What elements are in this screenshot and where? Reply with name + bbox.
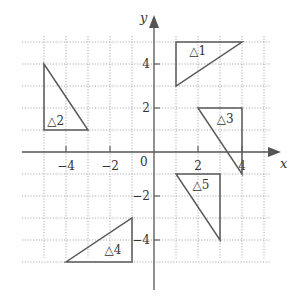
y-tick-label: 2 (142, 101, 150, 115)
x-tick-label: 2 (194, 159, 202, 173)
x-tick-label: −4 (57, 159, 75, 173)
y-axis-arrow-icon (149, 15, 159, 28)
x-axis-label: x (280, 156, 288, 171)
triangle-label: △4 (105, 243, 122, 257)
origin-label: 0 (140, 155, 148, 169)
triangle-label: △2 (47, 114, 64, 128)
x-tick-label: −2 (101, 159, 119, 173)
y-axis-label: y (139, 10, 148, 25)
axes: x y 0 (22, 10, 288, 290)
triangle-label: △5 (193, 178, 210, 192)
triangle-3: △3 (198, 108, 242, 174)
y-tick-label: 4 (142, 57, 150, 71)
y-tick-label: −4 (132, 233, 150, 247)
y-tick-label: −2 (132, 189, 150, 203)
coordinate-plane: x y 0 −4−22442−2−4 △1△2△3△4△5 (0, 0, 302, 303)
triangle-label: △1 (189, 44, 206, 58)
triangle-label: △3 (217, 112, 234, 126)
